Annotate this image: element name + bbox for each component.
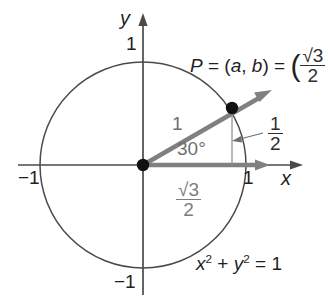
point-p-comma: , (241, 56, 252, 75)
unit-circle-figure: y 1 −1 x −1 1 1 30° √3 2 1 2 P = ( a , b… (0, 0, 328, 308)
vertical-leg-denominator: 2 (268, 133, 283, 153)
half-label-leader-line (240, 133, 263, 139)
point-p-equals-two: ) = (262, 56, 290, 75)
point-p-marker (226, 102, 238, 114)
equation-y-var: y (234, 253, 244, 274)
y-tick-label-negative-one: −1 (114, 272, 136, 291)
ray-radius-label: 1 (172, 114, 183, 133)
equation-equals-one: = 1 (255, 253, 282, 274)
point-p-coord-b: b (252, 56, 263, 75)
x-tick-label-positive-one: 1 (243, 168, 254, 187)
half-label-leader-arrowhead (232, 136, 242, 143)
equation-x-exponent: 2 (206, 252, 213, 265)
equation-plus: + (217, 253, 228, 274)
point-p-label: P = ( a , b ) = ( √3 2 (190, 46, 325, 86)
point-p-x-denominator: 2 (300, 65, 325, 85)
point-p-open-paren: ( (290, 51, 300, 81)
point-p-name: P (190, 56, 203, 75)
equation-x-var: x (196, 253, 206, 274)
initial-side-arrowhead (255, 160, 270, 171)
horizontal-leg-fraction: √3 2 (176, 180, 201, 220)
circle-equation-label: x2 + y2 = 1 (196, 254, 282, 273)
angle-label: 30° (177, 139, 206, 158)
vertical-leg-label: 1 2 (268, 114, 283, 154)
x-axis-arrowhead (290, 160, 303, 169)
horizontal-leg-label: √3 2 (176, 180, 201, 220)
point-p-equals-one: = ( (203, 56, 231, 75)
equation-y-exponent: 2 (243, 252, 250, 265)
horizontal-leg-denominator: 2 (176, 199, 201, 219)
point-p-x-fraction: √3 2 (300, 46, 325, 86)
point-p-coord-a: a (231, 56, 242, 75)
y-tick-label-positive-one: 1 (126, 34, 137, 53)
x-tick-label-negative-one: −1 (18, 168, 40, 187)
vertical-leg-numerator: 1 (268, 114, 283, 133)
y-axis-arrowhead (138, 13, 147, 26)
origin-point-marker (137, 159, 149, 171)
horizontal-leg-numerator: √3 (176, 180, 201, 199)
y-axis-label: y (120, 8, 130, 28)
vertical-leg-fraction: 1 2 (268, 114, 283, 154)
point-p-x-numerator: √3 (300, 46, 325, 65)
x-axis-label: x (281, 168, 291, 188)
